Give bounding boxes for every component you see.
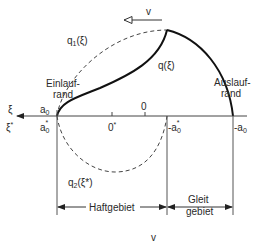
gleitgebiet-dimension: Gleit gebiet: [168, 194, 232, 217]
velocity-label: v: [146, 6, 151, 17]
footer-v-label: v: [151, 232, 156, 243]
gleit-label-2: gebiet: [186, 206, 213, 217]
haftgebiet-dimension: Haftgebiet: [58, 202, 166, 213]
a0-star-label: a0*: [40, 119, 50, 134]
minus-a0-label: -a0: [234, 122, 247, 134]
diagram-canvas: v ξ ξ* a0 0 a0* 0* -a0* -a0 q1(ξ) q(ξ) q…: [0, 0, 264, 243]
minus-a0-star-label: -a0*: [168, 119, 181, 134]
zero-star-label: 0*: [108, 121, 117, 133]
q2-label: q2(ξ*): [68, 177, 93, 189]
haftgebiet-label: Haftgebiet: [89, 202, 135, 213]
xi-label: ξ: [8, 104, 13, 116]
auslauf-label-2: rand: [221, 88, 241, 99]
xi-star-label: ξ*: [6, 121, 13, 134]
einlauf-label-1: Einlauf-: [46, 78, 80, 89]
open-arrowhead-icon: [124, 17, 132, 24]
q-curve-falling: [167, 30, 233, 116]
auslauf-label-1: Auslauf-: [214, 77, 251, 88]
q1-label: q1(ξ): [67, 35, 88, 47]
zero-label: 0: [141, 101, 147, 112]
q-label: q(ξ): [158, 60, 175, 72]
gleit-label-1: Gleit: [188, 194, 209, 205]
velocity-arrow: v: [124, 6, 162, 24]
a0-label: a0: [40, 104, 50, 116]
einlauf-label-2: rand: [53, 89, 73, 100]
